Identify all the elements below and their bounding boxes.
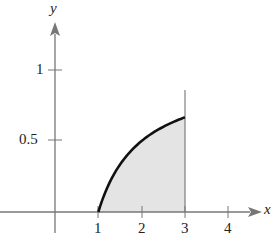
x-tick-label-4: 4 bbox=[224, 220, 232, 233]
x-tick-label-3: 3 bbox=[181, 220, 189, 233]
plot-canvas bbox=[0, 0, 273, 233]
x-axis-label: x bbox=[264, 201, 271, 218]
x-tick-label-1: 1 bbox=[94, 220, 102, 233]
shaded-area bbox=[98, 117, 185, 212]
x-axis-arrow-icon bbox=[248, 207, 262, 217]
y-tick-label-1: 1 bbox=[36, 61, 44, 78]
y-axis-arrow-icon bbox=[50, 22, 60, 36]
y-tick-label-0.5: 0.5 bbox=[19, 131, 38, 148]
x-tick-label-2: 2 bbox=[138, 220, 146, 233]
y-axis-label: y bbox=[50, 0, 57, 17]
